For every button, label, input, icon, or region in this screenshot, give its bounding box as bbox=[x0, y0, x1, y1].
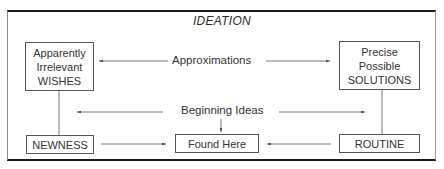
node-newness: NEWNESS bbox=[26, 135, 94, 154]
node-solutions-line-2: Possible bbox=[359, 59, 401, 73]
label-beginning-ideas: Beginning Ideas bbox=[181, 104, 263, 116]
node-found-here-label: Found Here bbox=[188, 137, 246, 151]
node-wishes: Apparently Irrelevant WISHES bbox=[25, 42, 94, 91]
node-solutions-line-1: Precise bbox=[361, 45, 398, 59]
node-routine-label: ROUTINE bbox=[355, 137, 405, 151]
node-wishes-line-1: Apparently bbox=[33, 46, 86, 60]
node-newness-label: NEWNESS bbox=[32, 138, 88, 152]
node-solutions: Precise Possible SOLUTIONS bbox=[339, 41, 420, 90]
node-wishes-line-3: WISHES bbox=[38, 74, 81, 88]
node-found-here: Found Here bbox=[175, 134, 259, 153]
label-approximations: Approximations bbox=[172, 54, 251, 66]
node-routine: ROUTINE bbox=[339, 134, 420, 153]
node-solutions-line-3: SOLUTIONS bbox=[348, 73, 412, 87]
node-wishes-line-2: Irrelevant bbox=[37, 60, 83, 74]
